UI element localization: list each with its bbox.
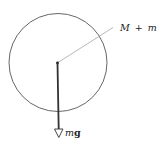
label-leader-line <box>58 28 113 63</box>
gravity-arrowhead-icon <box>55 129 64 138</box>
gravity-force-arrow-shaft <box>58 63 59 129</box>
body-mass-label: M + m <box>119 22 157 33</box>
gravity-force-label: mg <box>65 127 81 138</box>
free-body-diagram: M + m mg <box>0 0 160 148</box>
